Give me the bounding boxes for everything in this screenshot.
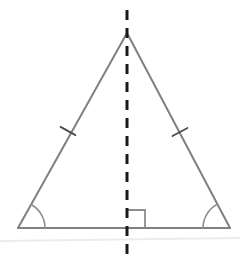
right-angle-square-icon	[127, 210, 145, 228]
right-base-angle-arc	[203, 204, 217, 228]
triangle-left-leg	[18, 33, 127, 228]
triangle-right-leg	[127, 33, 230, 228]
left-base-angle-arc	[31, 204, 45, 228]
faint-ground-line	[0, 238, 240, 241]
diagram-canvas	[0, 0, 240, 271]
isosceles-triangle-figure	[0, 0, 240, 271]
